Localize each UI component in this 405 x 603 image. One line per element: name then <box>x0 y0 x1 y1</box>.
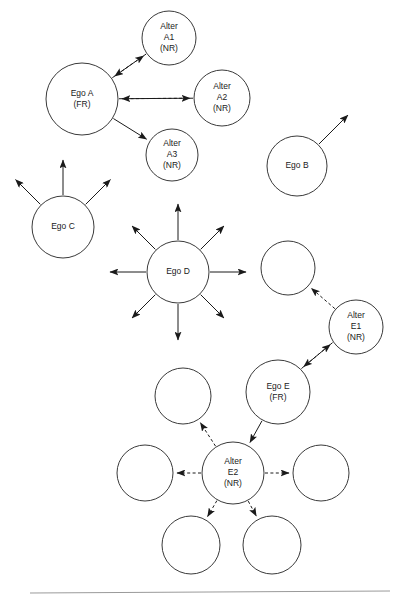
node-alter-e2[interactable]: AlterE2(NR) <box>202 442 264 504</box>
node-circle-ego-b[interactable] <box>267 136 327 196</box>
node-alter-a3[interactable]: AlterA3(NR) <box>146 129 198 181</box>
node-alter-a1[interactable]: AlterA1(NR) <box>142 11 196 65</box>
node-circle-empty-e2-right[interactable] <box>293 445 349 501</box>
network-svg: AlterA1(NR)Ego A(FR)AlterA2(NR)AlterA3(N… <box>0 0 405 603</box>
nodes-layer: AlterA1(NR)Ego A(FR)AlterA2(NR)AlterA3(N… <box>32 11 383 574</box>
node-empty-e1-upper[interactable] <box>261 241 315 295</box>
edge-ego-e-to-alter-e2 <box>250 421 262 443</box>
node-ego-d[interactable]: Ego D <box>147 241 209 303</box>
footer-divider-rule <box>30 591 390 593</box>
edge-alter-e1-to-empty-upper <box>311 288 334 308</box>
node-circle-empty-e1-upper[interactable] <box>261 241 315 295</box>
node-circle-alter-a1[interactable] <box>142 11 196 65</box>
edge-ego-d-out-2 <box>201 226 224 249</box>
node-circle-alter-a2[interactable] <box>194 70 250 126</box>
node-circle-empty-e2-left[interactable] <box>117 445 173 501</box>
node-circle-ego-c[interactable] <box>32 196 94 258</box>
node-empty-e2-downleft[interactable] <box>162 516 220 574</box>
ego-network-diagram: AlterA1(NR)Ego A(FR)AlterA2(NR)AlterA3(N… <box>0 0 405 603</box>
node-circle-empty-e2-downright[interactable] <box>243 516 301 574</box>
node-alter-e1[interactable]: AlterE1(NR) <box>329 300 383 354</box>
node-ego-c[interactable]: Ego C <box>32 196 94 258</box>
edge-alter-a1-to-ego-a <box>115 54 146 76</box>
node-circle-alter-a3[interactable] <box>146 129 198 181</box>
edge-ego-c-out-1 <box>16 180 41 205</box>
edge-ego-e-to-alter-e1 <box>301 345 330 369</box>
node-empty-e2-left[interactable] <box>117 445 173 501</box>
edge-ego-d-out-4 <box>201 295 224 318</box>
node-empty-e2-right[interactable] <box>293 445 349 501</box>
node-ego-e[interactable]: Ego E(FR) <box>246 360 310 424</box>
node-circle-ego-a[interactable] <box>46 63 118 135</box>
node-circle-empty-e2-downleft[interactable] <box>162 516 220 574</box>
edge-ego-d-out-6 <box>132 295 155 318</box>
node-ego-a[interactable]: Ego A(FR) <box>46 63 118 135</box>
node-alter-a2[interactable]: AlterA2(NR) <box>194 70 250 126</box>
node-empty-e2-downright[interactable] <box>243 516 301 574</box>
node-ego-b[interactable]: Ego B <box>267 136 327 196</box>
node-circle-ego-e[interactable] <box>246 360 310 424</box>
node-empty-e2-upleft[interactable] <box>155 368 211 424</box>
node-circle-alter-e1[interactable] <box>329 300 383 354</box>
edge-ego-a-to-alter-a3 <box>113 119 146 140</box>
node-circle-ego-d[interactable] <box>147 241 209 303</box>
edge-alter-e2-to-empty-upleft <box>200 423 215 446</box>
edge-ego-d-out-8 <box>132 226 155 249</box>
edge-ego-b-out-1 <box>319 115 348 144</box>
edge-ego-c-out-3 <box>86 180 111 205</box>
edge-alter-e2-to-empty-downright <box>248 501 256 516</box>
edge-alter-e2-to-empty-downleft <box>208 501 217 517</box>
node-circle-alter-e2[interactable] <box>202 442 264 504</box>
node-circle-empty-e2-upleft[interactable] <box>155 368 211 424</box>
